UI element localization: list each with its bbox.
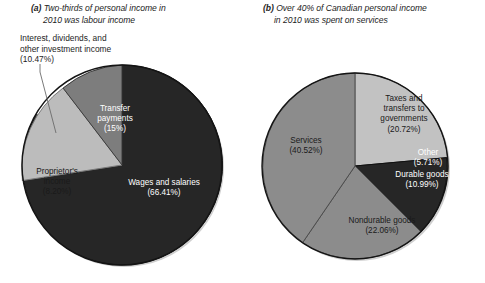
panel-a: (a) Two-thirds of personal income in 201…: [0, 0, 245, 283]
panel-b-pie-svg: [245, 0, 485, 283]
panel-a-pie-svg: [0, 0, 245, 283]
panel-b: (b) Over 40% of Canadian personal income…: [245, 0, 485, 283]
